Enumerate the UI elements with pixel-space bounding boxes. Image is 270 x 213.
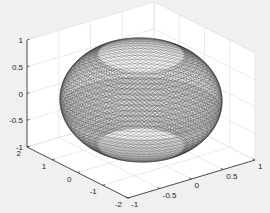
figure-canvas: 10.50-0.5-1210-1-2-1-0.500.51 xyxy=(0,0,270,213)
ellipsoid-surface xyxy=(60,38,222,162)
z-tick-label: -0.5 xyxy=(9,116,23,125)
y-tick-label: 2 xyxy=(17,149,22,158)
z-tick-label: 1 xyxy=(19,36,24,45)
y-tick-label: -1 xyxy=(90,187,98,196)
y-tick-label: 0 xyxy=(67,175,72,184)
y-tick-label: -2 xyxy=(115,200,123,209)
x-tick-label: -1 xyxy=(131,200,139,209)
x-tick-label: -0.5 xyxy=(163,191,177,200)
x-tick-label: 0.5 xyxy=(226,172,238,181)
y-tick-label: 1 xyxy=(42,162,47,171)
x-tick-label: 0 xyxy=(195,181,200,190)
z-tick-label: 0.5 xyxy=(12,63,24,72)
z-tick-label: 0 xyxy=(19,90,24,99)
x-tick-label: 1 xyxy=(258,162,263,171)
